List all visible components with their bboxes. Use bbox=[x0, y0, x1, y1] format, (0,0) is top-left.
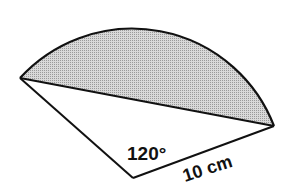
diagram-canvas: 120° 10 cm bbox=[0, 0, 289, 189]
radius-label: 10 cm bbox=[180, 151, 235, 186]
angle-label: 120° bbox=[127, 143, 166, 164]
sector-diagram: 120° 10 cm bbox=[0, 0, 289, 189]
